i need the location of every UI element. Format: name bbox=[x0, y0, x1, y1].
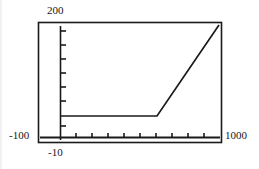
data-curve bbox=[61, 25, 219, 116]
x-axis-max-label: 1000 bbox=[225, 130, 247, 141]
y-axis-min-label: -100 bbox=[9, 130, 29, 141]
x-axis-min-label: -10 bbox=[48, 147, 63, 158]
y-axis-ticks bbox=[61, 31, 67, 126]
plot-canvas bbox=[0, 0, 259, 169]
y-axis-max-label: 200 bbox=[47, 5, 64, 16]
plot-frame bbox=[39, 23, 222, 143]
plot-figure: 200 -100 1000 -10 bbox=[0, 0, 259, 169]
